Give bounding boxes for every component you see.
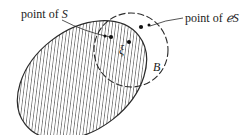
label-point-of-s: point of S — [21, 7, 68, 21]
point-of-cs-dot — [139, 25, 143, 29]
label-ball-b: B — [153, 60, 161, 74]
point-of-cs-boundary-dot — [148, 24, 151, 27]
point-of-s-dot — [109, 35, 113, 39]
xi-dot — [127, 40, 131, 44]
point-of-s-boundary-dot — [104, 35, 107, 38]
label-point-of-cs: point of ℯS — [185, 11, 239, 25]
boundary-point-diagram: point of S point of ℯS ξ B — [0, 0, 249, 135]
label-xi: ξ — [119, 43, 125, 57]
